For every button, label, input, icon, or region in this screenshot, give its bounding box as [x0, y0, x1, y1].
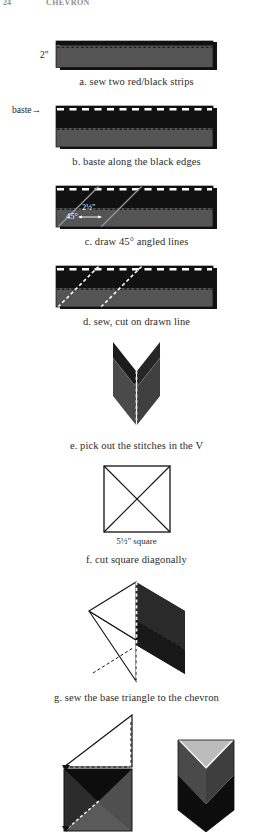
caption-step-c: c. draw 45° angled lines — [0, 236, 273, 247]
strip-black-band — [56, 41, 213, 46]
baste-text: baste — [12, 105, 32, 115]
page-folio: 24 — [3, 0, 11, 9]
step-c-diagram — [0, 184, 273, 232]
measure-label-two-and-half: 2½" — [82, 203, 95, 212]
figure-step-f — [0, 463, 273, 541]
caption-step-d: d. sew, cut on drawn line — [0, 316, 273, 327]
caption-step-g: g. sew the base triangle to the chevron — [0, 692, 273, 703]
step-d-diagram — [0, 264, 273, 312]
figure-step-g — [0, 578, 273, 688]
caption-step-f: f. cut square diagonally — [0, 554, 273, 565]
strip-red-body — [56, 46, 213, 68]
step-b-side-label: baste→ — [12, 105, 41, 115]
caption-step-a: a. sew two red/black strips — [0, 76, 273, 87]
arrow-right-icon: → — [32, 105, 42, 115]
figure-step-e — [0, 340, 273, 430]
running-head: 24 CHEVRON — [0, 0, 273, 12]
caption-step-e: e. pick out the stitches in the V — [0, 440, 273, 451]
caption-step-b: b. baste along the black edges — [0, 156, 273, 167]
step-a-side-label: 2" — [40, 50, 49, 60]
strip-d-gray-half — [56, 288, 213, 307]
running-title: CHEVRON — [46, 0, 90, 9]
angle-label-45: 45° — [66, 211, 78, 221]
strip-b-gray-half — [56, 128, 213, 147]
flipped-base-triangle — [64, 715, 132, 767]
figure-step-a: 2" — [0, 38, 273, 76]
figure-step-c: 45° 2½" — [0, 184, 273, 232]
sub-label-square-size: 5½" square — [0, 536, 273, 546]
step-f-diagram — [0, 463, 273, 541]
step-h-diagram — [0, 712, 273, 832]
quilting-instruction-page: 24 CHEVRON 2" a. sew two red/black strip… — [0, 0, 273, 832]
figure-step-d — [0, 264, 273, 312]
step-e-diagram — [0, 340, 273, 430]
figure-step-b: baste→ — [0, 104, 273, 152]
figure-step-h — [0, 712, 273, 832]
step-g-diagram — [0, 578, 273, 688]
